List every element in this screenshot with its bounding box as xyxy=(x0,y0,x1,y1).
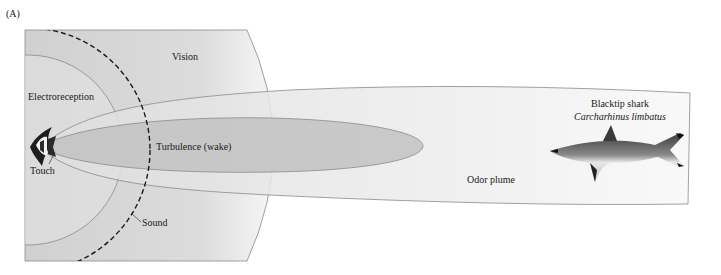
sound-label: Sound xyxy=(142,218,168,228)
touch-label: Touch xyxy=(30,166,55,176)
sensory-ranges-figure: (A) Vision Electroreception Turbulence (… xyxy=(0,0,721,275)
shark-common-name: Blacktip shark xyxy=(560,99,680,109)
shark-scientific-name: Carcharhinus limbatus xyxy=(560,112,680,122)
diagram-canvas xyxy=(0,0,721,275)
turbulence-label: Turbulence (wake) xyxy=(156,142,231,152)
electroreception-label: Electroreception xyxy=(28,92,94,102)
odor-plume-label: Odor plume xyxy=(467,175,515,185)
panel-label: (A) xyxy=(6,9,20,19)
vision-label: Vision xyxy=(172,52,198,62)
